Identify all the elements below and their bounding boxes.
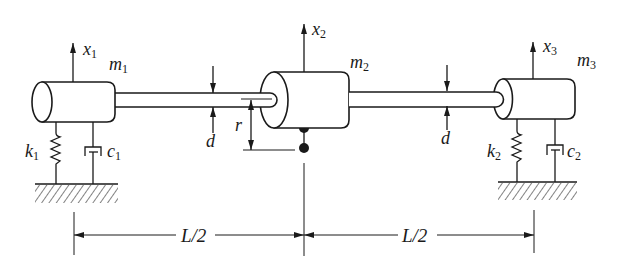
span-right-label: L/2 xyxy=(401,225,428,246)
mass-m3-label: m3 xyxy=(577,50,596,72)
shaft-left xyxy=(115,93,277,107)
shaft-right xyxy=(349,92,504,107)
svg-text:x1: x1 xyxy=(82,39,97,61)
mass-m1-cylinder xyxy=(32,82,115,122)
displacement-x1: x1 xyxy=(73,39,97,82)
unbalance-mass xyxy=(299,128,309,153)
displacement-x2: x2 xyxy=(304,19,326,72)
svg-text:k2: k2 xyxy=(487,141,501,163)
svg-text:d: d xyxy=(206,131,216,151)
damper-c1: c1 xyxy=(85,122,121,184)
svg-text:x3: x3 xyxy=(542,36,557,58)
svg-text:c2: c2 xyxy=(567,141,581,163)
span-left-label: L/2 xyxy=(180,225,207,246)
ground-left xyxy=(35,184,118,203)
mass-m3-cylinder xyxy=(494,79,576,119)
span-dimension: L/2 L/2 xyxy=(74,163,534,256)
damper-c2: c2 xyxy=(547,119,581,182)
svg-text:c1: c1 xyxy=(107,141,121,163)
shaft-diameter-left-dimension: d xyxy=(206,66,216,151)
svg-text:x2: x2 xyxy=(311,19,326,41)
three-mass-rotor-diagram: r x1 x2 x3 m1 m2 m3 d d k1 xyxy=(0,0,621,274)
spring-k1: k1 xyxy=(25,122,60,184)
svg-text:d: d xyxy=(441,128,451,148)
displacement-x3: x3 xyxy=(533,36,557,79)
mass-m2-label: m2 xyxy=(350,52,369,74)
mass-m1-label: m1 xyxy=(109,54,128,76)
spring-k2: k2 xyxy=(487,119,521,182)
unbalance-radius-label: r xyxy=(235,115,243,135)
ground-right xyxy=(498,182,577,200)
svg-text:k1: k1 xyxy=(25,141,39,163)
